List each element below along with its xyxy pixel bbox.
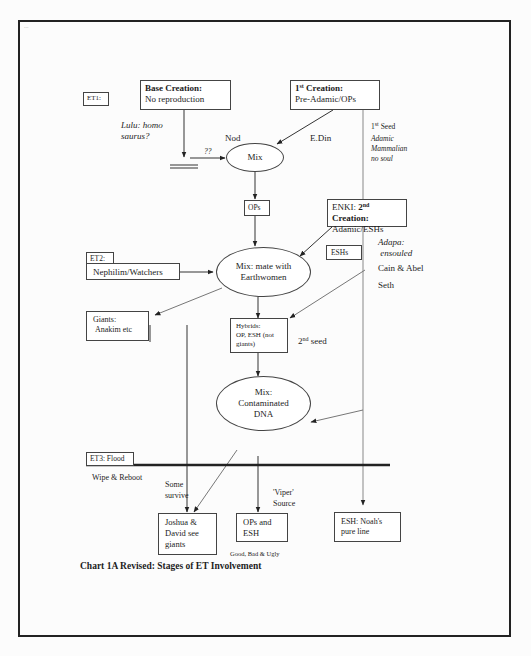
first-creation-title: 1st Creation: (295, 83, 343, 93)
mix-contaminated-dna-oval: Mix:ContaminatedDNA (216, 376, 311, 431)
viper-source-label: 'Viper'Source (273, 487, 295, 509)
stage-et1-label: ET1: (83, 92, 109, 106)
mix-earthwomen-text: Mix: mate withEarthwomen (236, 261, 292, 283)
hybrids-box: Hybrids:OP, ESH (notgiants) (230, 318, 288, 353)
chart-caption: Chart 1A Revised: Stages of ET Involveme… (80, 561, 261, 571)
nephilim-watchers-box: Nephilim/Watchers (86, 263, 180, 280)
second-seed-label: 2nd seed (298, 336, 327, 347)
seth-label: Seth (378, 280, 394, 291)
cain-abel-label: Cain & Abel (378, 263, 424, 274)
nephilim-text: Nephilim/Watchers (93, 267, 163, 277)
first-creation-body: Pre-Adamic/OPs (295, 94, 356, 104)
enki-title: ENKI: 2nd Creation: (332, 202, 369, 223)
some-survive-label: Somesurvive (165, 479, 189, 501)
edin-label: E.Din (310, 133, 331, 144)
first-seed-label: 1st Seed (371, 121, 395, 132)
stage-et3-text: ET3: Flood (90, 454, 124, 463)
eshs-text: ESHs (331, 248, 348, 257)
adapa-label: Adapa: ensouled (378, 237, 412, 259)
joshua-david-box: Joshua &David seegiants (158, 513, 217, 555)
wipe-reboot-label: Wipe & Reboot (92, 472, 142, 483)
base-creation-title: Base Creation: (145, 83, 202, 93)
stage-et3-label: ET3: Flood (86, 452, 134, 466)
ops-box: OPs (244, 200, 270, 216)
mix-oval-text: Mix (247, 152, 262, 163)
nod-label: Nod (225, 133, 241, 144)
mix-contaminated-text: Mix:ContaminatedDNA (238, 387, 289, 420)
mix-earthwomen-oval: Mix: mate withEarthwomen (216, 247, 311, 297)
base-creation-body: No reproduction (145, 94, 204, 104)
lulu-label: Lulu: homosaurus? (121, 120, 163, 142)
eshs-box: ESHs (326, 245, 362, 260)
noah-pure-line-box: ESH: Noah'spure line (334, 512, 401, 542)
ops-text: OPs (248, 203, 261, 212)
question-label: ?? (204, 146, 212, 157)
enki-body: Adamic/ESHs (332, 224, 384, 234)
adamic-label: AdamicMammalianno soul (371, 134, 407, 164)
enki-second-creation-box: ENKI: 2nd Creation: Adamic/ESHs (327, 199, 407, 227)
giants-box: Giants: Anakim etc (86, 311, 149, 341)
stage-et2-text: ET2: (90, 254, 105, 263)
base-creation-box: Base Creation: No reproduction (140, 80, 231, 110)
stage-et1-text: ET1: (87, 94, 101, 102)
first-creation-box: 1st Creation: Pre-Adamic/OPs (290, 80, 380, 110)
mix-oval: Mix (226, 143, 284, 172)
ops-and-esh-box: OPs andESH (236, 513, 288, 542)
good-bad-ugly-label: Good, Bad & Ugly (230, 548, 279, 559)
